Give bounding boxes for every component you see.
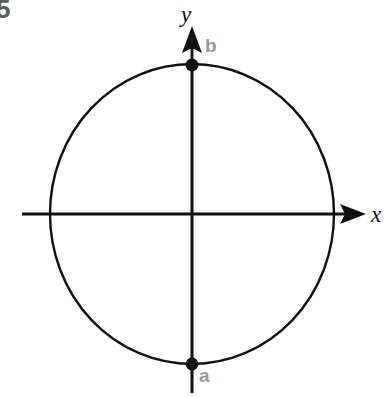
- point-label-b: b: [205, 36, 217, 55]
- coordinate-plane-svg: [0, 0, 390, 397]
- point-label-a: a: [199, 366, 210, 385]
- y-axis-label: y: [181, 3, 191, 26]
- point-dot-b: [186, 59, 199, 72]
- x-axis-label: x: [371, 203, 381, 226]
- problem-number: 5: [0, 0, 10, 22]
- circle-diagram-figure: 5 y x b a: [0, 0, 390, 397]
- point-dot-a: [186, 358, 199, 371]
